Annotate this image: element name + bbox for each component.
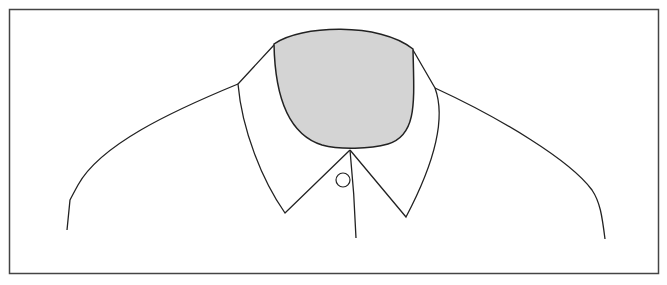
right-shoulder-line [435,88,605,239]
collar-button [336,173,350,187]
face-shape [274,29,414,148]
placket-line [350,150,356,238]
left-shoulder-line [67,84,238,230]
shirt-collar-illustration [0,0,667,285]
